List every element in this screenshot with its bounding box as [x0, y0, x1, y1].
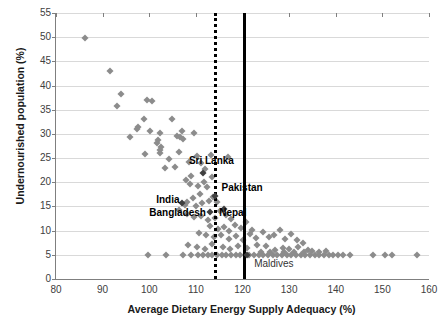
- scatter-point: [234, 243, 241, 250]
- scatter-point: [149, 97, 156, 104]
- scatter-point: [118, 91, 125, 98]
- scatter-point: [196, 190, 203, 197]
- y-axis-tick-mark: [52, 255, 56, 256]
- x-axis-title: Average Dietary Energy Supply Adequacy (…: [55, 303, 428, 315]
- chart-figure: 0510152025303540455055809010011012013014…: [0, 0, 447, 328]
- scatter-point: [276, 226, 283, 233]
- scatter-point: [193, 244, 200, 251]
- y-axis-tick-label: 15: [26, 201, 51, 211]
- x-axis-tick-mark: [196, 13, 197, 17]
- scatter-point: [346, 251, 353, 258]
- scatter-point: [162, 164, 169, 171]
- scatter-point: [414, 251, 421, 258]
- scatter-point: [126, 134, 133, 141]
- scatter-point: [190, 194, 197, 201]
- y-axis-tick-label: 35: [26, 105, 51, 115]
- y-axis-title: Undernourished population (%): [14, 11, 26, 241]
- scatter-point: [370, 251, 377, 258]
- x-axis-tick-label: 160: [409, 284, 447, 295]
- country-label-sri-lanka: Sri Lanka: [189, 155, 234, 166]
- scatter-point: [180, 135, 187, 142]
- reference-line-solid-threshold: [243, 13, 246, 279]
- scatter-point: [282, 236, 289, 243]
- scatter-point: [227, 245, 234, 252]
- x-axis-tick-label: 150: [362, 284, 402, 295]
- country-label-india: India: [156, 194, 179, 205]
- country-label-maldives: Maldives: [254, 258, 293, 269]
- y-axis-tick-mark: [52, 231, 56, 232]
- plot-area: 0510152025303540455055809010011012013014…: [55, 13, 429, 280]
- highlighted-point-bangladesh: [206, 209, 213, 216]
- x-axis-tick-mark: [429, 13, 430, 17]
- x-axis-tick-label: 110: [176, 284, 216, 295]
- scatter-point: [381, 251, 388, 258]
- x-axis-tick-label: 90: [83, 284, 123, 295]
- scatter-point: [218, 231, 225, 238]
- y-axis-tick-label: 55: [26, 8, 51, 18]
- y-axis-tick-label: 45: [26, 56, 51, 66]
- scatter-point: [259, 228, 266, 235]
- y-axis-tick-mark: [52, 134, 56, 135]
- scatter-point: [185, 242, 192, 249]
- scatter-point: [175, 148, 182, 155]
- x-axis-tick-label: 130: [269, 284, 309, 295]
- y-axis-tick-mark: [52, 279, 56, 280]
- reference-line-dotted-threshold: [214, 13, 217, 279]
- x-axis-tick-label: 80: [36, 284, 76, 295]
- scatter-point: [204, 184, 211, 191]
- scatter-point: [191, 130, 198, 137]
- y-axis-tick-mark: [52, 158, 56, 159]
- scatter-point: [232, 233, 239, 240]
- scatter-point: [141, 116, 148, 123]
- y-axis-tick-mark: [52, 86, 56, 87]
- scatter-point: [226, 227, 233, 234]
- x-axis-tick-label: 120: [223, 284, 263, 295]
- y-axis-tick-label: 20: [26, 177, 51, 187]
- y-axis-tick-label: 5: [26, 250, 51, 260]
- y-axis-tick-mark: [52, 182, 56, 183]
- scatter-point: [81, 35, 88, 42]
- scatter-point: [271, 232, 278, 239]
- country-label-bangladesh: Bangladesh: [149, 207, 206, 218]
- scatter-point: [206, 222, 213, 229]
- scatter-point: [179, 251, 186, 258]
- y-axis-tick-mark: [52, 206, 56, 207]
- y-axis-tick-label: 0: [26, 274, 51, 284]
- country-label-pakistan: Pakistan: [222, 182, 263, 193]
- scatter-point: [156, 150, 163, 157]
- y-axis-tick-label: 10: [26, 226, 51, 236]
- scatter-point: [141, 151, 148, 158]
- x-axis-tick-label: 100: [129, 284, 169, 295]
- scatter-point: [165, 156, 172, 163]
- x-axis-tick-mark: [149, 13, 150, 17]
- scatter-point: [339, 251, 346, 258]
- y-axis-tick-label: 50: [26, 32, 51, 42]
- y-axis-tick-label: 40: [26, 81, 51, 91]
- scatter-point: [145, 251, 152, 258]
- country-label-nepal: Nepal: [219, 207, 246, 218]
- y-axis-tick-label: 30: [26, 129, 51, 139]
- x-axis-tick-mark: [56, 13, 57, 17]
- scatter-point: [225, 236, 232, 243]
- scatter-point: [194, 183, 201, 190]
- scatter-point: [388, 251, 395, 258]
- x-axis-tick-mark: [336, 13, 337, 17]
- scatter-point: [162, 251, 169, 258]
- scatter-point: [203, 232, 210, 239]
- scatter-point: [169, 116, 176, 123]
- y-axis-tick-label: 25: [26, 153, 51, 163]
- y-axis-tick-mark: [52, 61, 56, 62]
- scatter-point: [106, 67, 113, 74]
- y-axis-tick-mark: [52, 110, 56, 111]
- x-axis-tick-mark: [103, 13, 104, 17]
- x-axis-tick-mark: [382, 13, 383, 17]
- scatter-point: [219, 244, 226, 251]
- x-axis-tick-label: 140: [316, 284, 356, 295]
- y-axis-tick-mark: [52, 37, 56, 38]
- scatter-point: [172, 163, 179, 170]
- x-axis-tick-mark: [289, 13, 290, 17]
